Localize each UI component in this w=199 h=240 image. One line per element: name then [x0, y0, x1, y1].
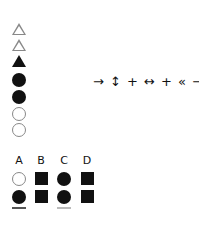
triangle-filled-icon: [12, 55, 26, 67]
triangle-outline-icon: [12, 39, 26, 51]
square-filled-icon: [35, 172, 48, 185]
square-filled-icon: [81, 190, 94, 203]
square-filled-icon: [35, 190, 48, 203]
symbol-sequence: → ↕ + ↔ + « →: [93, 74, 199, 90]
square-filled-icon: [81, 172, 94, 185]
circle-filled-icon: [12, 73, 26, 87]
column-header-c: C: [57, 155, 71, 167]
circle-filled-icon: [12, 90, 26, 104]
column-header-b: B: [34, 155, 48, 167]
circle-outline-icon: [12, 107, 26, 121]
triangle-outline-icon: [12, 23, 26, 35]
circle-outline-icon: [12, 172, 26, 186]
column-header-a: A: [12, 155, 26, 167]
partial-shape: [57, 207, 71, 209]
circle-filled-icon: [12, 190, 26, 204]
circle-filled-icon: [57, 172, 71, 186]
circle-outline-icon: [12, 123, 26, 137]
column-header-d: D: [80, 155, 94, 167]
circle-filled-icon: [57, 190, 71, 204]
partial-shape: [12, 207, 26, 209]
